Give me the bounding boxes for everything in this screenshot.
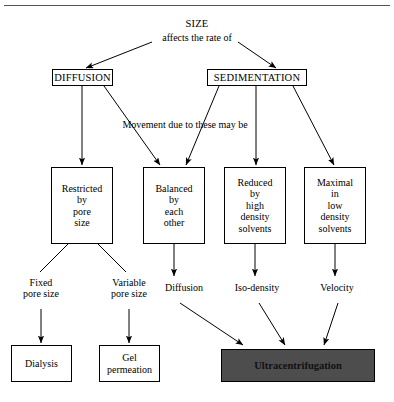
node-velocity-label: Velocity bbox=[308, 281, 366, 295]
node-balanced-by-each-other: Balanced by each other bbox=[143, 167, 205, 244]
node-gel-permeation: Gel permeation bbox=[99, 345, 160, 382]
node-fixed-pore-size: Fixed pore size bbox=[9, 274, 73, 302]
flowchart-figure: SIZE affects the rate of DIFFUSION SEDIM… bbox=[0, 0, 394, 402]
node-affects-the-rate-of: affects the rate of bbox=[133, 31, 261, 44]
node-diffusion-header: DIFFUSION bbox=[52, 69, 113, 86]
node-movement-note: Movement due to these may be bbox=[106, 118, 264, 131]
node-dialysis: Dialysis bbox=[11, 345, 72, 382]
node-restricted-by-pore-size: Restricted by pore size bbox=[51, 167, 113, 244]
node-diffusion-label: Diffusion bbox=[155, 281, 213, 295]
node-reduced-by-high-density-solvents: Reduced by high density solvents bbox=[224, 167, 286, 244]
node-sedimentation-header: SEDIMENTATION bbox=[207, 69, 307, 86]
node-size: SIZE bbox=[160, 17, 234, 30]
node-variable-pore-size: Variable pore size bbox=[97, 274, 161, 302]
node-ultracentrifugation: Ultracentrifugation bbox=[221, 349, 375, 382]
node-iso-density-label: Iso-density bbox=[226, 281, 288, 295]
node-maximal-in-low-density-solvents: Maximal in low density solvents bbox=[304, 167, 366, 244]
